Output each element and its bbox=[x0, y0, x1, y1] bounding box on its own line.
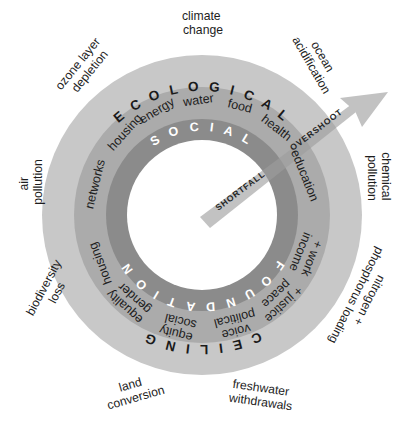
boundary-air-pollution: air pollution bbox=[17, 159, 45, 204]
doughnut-diagram-canvas: E C O L O G I C A L C E I L I N G S O C … bbox=[0, 0, 415, 427]
boundary-land-conversion: land conversion bbox=[102, 369, 166, 412]
doughnut-economics-diagram: E C O L O G I C A L C E I L I N G S O C … bbox=[0, 0, 415, 427]
boundary-freshwater-withdrawals: freshwater withdrawals bbox=[227, 377, 295, 414]
doughnut-hole bbox=[127, 140, 277, 290]
boundary-chemical-pollution: chemical pollution bbox=[365, 152, 393, 203]
boundary-climate-change: climate change bbox=[182, 9, 224, 37]
boundary-ocean-acidification: ocean acidification bbox=[289, 27, 345, 96]
